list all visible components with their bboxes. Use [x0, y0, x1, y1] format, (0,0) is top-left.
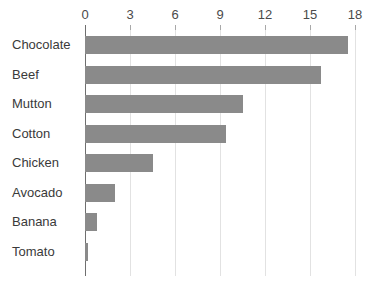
y-axis-label-chicken: Chicken — [0, 154, 72, 172]
bar-fill — [85, 36, 348, 54]
bar-fill — [85, 184, 115, 202]
y-axis-label-cotton: Cotton — [0, 125, 72, 143]
bar-fill — [85, 95, 243, 113]
y-axis-label-banana: Banana — [0, 213, 72, 231]
plot-area — [85, 30, 355, 276]
x-tick-mark-18 — [355, 25, 356, 30]
bar-beef[interactable] — [85, 66, 321, 84]
x-tick-label-6: 6 — [171, 8, 178, 22]
bar-chart: 0369121518 ChocolateBeefMuttonCottonChic… — [0, 0, 376, 283]
x-tick-label-12: 12 — [258, 8, 272, 22]
y-axis-label-chocolate: Chocolate — [0, 36, 72, 54]
y-axis-label-beef: Beef — [0, 66, 72, 84]
bar-fill — [85, 154, 153, 172]
x-tick-label-3: 3 — [126, 8, 133, 22]
bar-avocado[interactable] — [85, 184, 115, 202]
y-axis: ChocolateBeefMuttonCottonChickenAvocadoB… — [0, 30, 80, 276]
bar-fill — [85, 243, 88, 261]
bar-fill — [85, 66, 321, 84]
bar-fill — [85, 125, 226, 143]
bar-chicken[interactable] — [85, 154, 153, 172]
x-tick-label-18: 18 — [348, 8, 362, 22]
y-axis-label-mutton: Mutton — [0, 95, 72, 113]
gridline-18 — [355, 30, 356, 276]
bar-banana[interactable] — [85, 213, 97, 231]
bars-layer — [85, 30, 355, 276]
y-axis-label-avocado: Avocado — [0, 184, 72, 202]
bar-cotton[interactable] — [85, 125, 226, 143]
bar-tomato[interactable] — [85, 243, 88, 261]
bar-chocolate[interactable] — [85, 36, 348, 54]
x-tick-label-9: 9 — [216, 8, 223, 22]
x-tick-label-0: 0 — [81, 8, 88, 22]
bar-mutton[interactable] — [85, 95, 243, 113]
y-axis-label-tomato: Tomato — [0, 243, 72, 261]
bar-fill — [85, 213, 97, 231]
x-axis: 0369121518 — [85, 8, 355, 30]
x-tick-label-15: 15 — [303, 8, 317, 22]
